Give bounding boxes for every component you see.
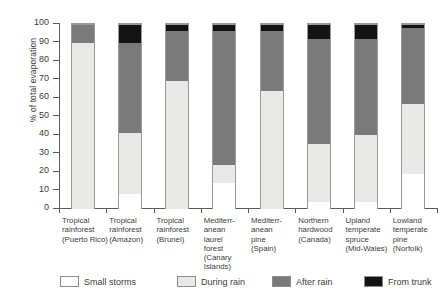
x-axis-label-line: pine	[393, 235, 445, 244]
legend-label: From trunk	[388, 277, 432, 287]
x-axis-label-line: (Spain)	[251, 244, 305, 253]
bar-segment[interactable]	[307, 202, 331, 209]
y-tick-label: 80	[0, 54, 49, 64]
legend-label: After rain	[296, 277, 333, 287]
bar-segment[interactable]	[212, 183, 236, 209]
y-tick-label: 70	[0, 73, 49, 83]
bar-segment[interactable]	[401, 174, 425, 209]
x-axis-label-line: forest	[204, 244, 258, 253]
x-axis-label-line: rainforest	[157, 225, 211, 234]
x-axis-label-5: Mediterr-aneanpine(Spain)	[251, 216, 305, 253]
bar-segment[interactable]	[165, 31, 189, 81]
x-axis-label-line: laurel	[204, 235, 258, 244]
bar-segment[interactable]	[71, 24, 95, 43]
bar-7[interactable]	[354, 23, 378, 208]
x-axis-label-line: Northern	[298, 216, 352, 225]
y-tick-label: 50	[0, 110, 49, 120]
bar-segment[interactable]	[307, 144, 331, 201]
x-axis-label-line: pine	[251, 235, 305, 244]
x-axis-label-line: Upland	[346, 216, 400, 225]
x-axis-label-2: Tropicalrainforest(Amazon)	[109, 216, 163, 244]
bar-segment[interactable]	[401, 104, 425, 174]
x-axis-label-line: hardwood	[298, 225, 352, 234]
legend-label: During rain	[201, 277, 245, 287]
x-axis-label-line: Islands)	[204, 262, 258, 271]
bar-segment[interactable]	[165, 24, 189, 31]
bar-segment[interactable]	[118, 194, 142, 209]
bar-segment[interactable]	[212, 31, 236, 164]
x-axis-label-7: Uplandtemperatespruce(Mid-Wales)	[346, 216, 400, 253]
x-tick-mark	[106, 208, 107, 213]
y-tick-label: 90	[0, 36, 49, 46]
y-tick-label: 60	[0, 91, 49, 101]
bar-2[interactable]	[118, 23, 142, 208]
x-tick-mark	[295, 208, 296, 213]
bar-segment[interactable]	[118, 43, 142, 134]
plot-area	[59, 23, 437, 208]
y-tick-label: 100	[0, 17, 49, 27]
x-axis-label-line: Tropical	[62, 216, 116, 225]
legend-item[interactable]: Small storms	[60, 276, 136, 287]
bar-segment[interactable]	[354, 24, 378, 39]
bar-segment[interactable]	[401, 24, 425, 28]
legend-swatch-icon	[60, 276, 79, 287]
bar-segment[interactable]	[354, 135, 378, 202]
bar-segment[interactable]	[260, 31, 284, 90]
bar-segment[interactable]	[118, 133, 142, 194]
bar-4[interactable]	[212, 23, 236, 208]
x-axis-label-1: Tropicalrainforest(Puerto Rico)	[62, 216, 116, 244]
x-tick-mark	[390, 208, 391, 213]
x-axis-label-8: Lowlandtemperatepine(Norfolk)	[393, 216, 445, 253]
bar-segment[interactable]	[212, 24, 236, 31]
legend-swatch-icon	[177, 276, 196, 287]
x-axis-label-line: (Norfolk)	[393, 244, 445, 253]
x-tick-mark	[437, 208, 438, 213]
bar-6[interactable]	[307, 23, 331, 208]
bar-segment[interactable]	[401, 28, 425, 104]
bar-segment[interactable]	[71, 43, 95, 210]
x-axis-label-line: spruce	[346, 235, 400, 244]
bar-segment[interactable]	[260, 24, 284, 31]
bar-8[interactable]	[401, 23, 425, 208]
x-axis-label-line: Mediterr-	[204, 216, 258, 225]
chart-legend: Small stormsDuring rainAfter rainFrom tr…	[0, 276, 445, 296]
bar-segment[interactable]	[165, 81, 189, 209]
x-axis-label-4: Mediterr-aneanlaurelforest(CanaryIslands…	[204, 216, 258, 272]
x-axis-label-line: rainforest	[109, 225, 163, 234]
x-axis-label-line: temperate	[393, 225, 445, 234]
legend-swatch-icon	[364, 276, 383, 287]
bar-segment[interactable]	[212, 165, 236, 184]
x-axis-label-line: Lowland	[393, 216, 445, 225]
x-axis-label-line: anean	[204, 225, 258, 234]
x-axis-label-line: Tropical	[157, 216, 211, 225]
x-axis-label-line: (Canada)	[298, 235, 352, 244]
bar-1[interactable]	[71, 23, 95, 208]
bar-segment[interactable]	[354, 39, 378, 135]
legend-label: Small storms	[84, 277, 136, 287]
x-axis-label-line: Tropical	[109, 216, 163, 225]
legend-item[interactable]: During rain	[177, 276, 245, 287]
bar-3[interactable]	[165, 23, 189, 208]
x-axis-label-3: Tropicalrainforest(Brunei)	[157, 216, 211, 244]
bar-segment[interactable]	[307, 39, 331, 144]
stacked-bar-chart: % of total evaporation 01020304050607080…	[0, 0, 445, 305]
legend-item[interactable]: After rain	[272, 276, 333, 287]
bar-5[interactable]	[260, 23, 284, 208]
bar-segment[interactable]	[118, 24, 142, 43]
y-tick-label: 40	[0, 128, 49, 138]
x-tick-mark	[248, 208, 249, 213]
x-axis-label-line: anean	[251, 225, 305, 234]
x-axis-label-line: temperate	[346, 225, 400, 234]
bar-segment[interactable]	[354, 202, 378, 209]
x-axis-label-line: (Puerto Rico)	[62, 235, 116, 244]
y-tick-label: 30	[0, 147, 49, 157]
x-axis-label-line: (Amazon)	[109, 235, 163, 244]
x-axis-label-line: Mediterr-	[251, 216, 305, 225]
bar-segment[interactable]	[307, 24, 331, 39]
y-tick-label: 10	[0, 184, 49, 194]
legend-item[interactable]: From trunk	[364, 276, 432, 287]
y-tick-label: 20	[0, 165, 49, 175]
bar-segment[interactable]	[260, 91, 284, 209]
legend-swatch-icon	[272, 276, 291, 287]
x-axis-label-line: (Canary	[204, 253, 258, 262]
